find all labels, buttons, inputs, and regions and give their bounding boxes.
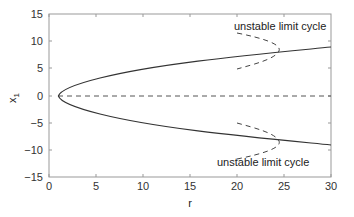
x-tick-label: 15 (184, 180, 196, 192)
annotation-top: unstable limit cycle (234, 20, 326, 32)
plot-frame (49, 14, 331, 177)
x-tick-label: 10 (137, 180, 149, 192)
x-tick-label: 30 (325, 180, 337, 192)
y-tick-label: −5 (30, 117, 43, 129)
x-tick-label: 20 (231, 180, 243, 192)
y-axis-label: x1 (6, 92, 21, 103)
y-tick-label: −10 (24, 144, 43, 156)
x-axis (49, 14, 331, 177)
x-axis-label: r (188, 197, 192, 209)
svg-text:x1: x1 (6, 92, 21, 103)
y-tick-label: 15 (31, 8, 43, 20)
x-tick-label: 0 (46, 180, 52, 192)
y-axis (49, 41, 331, 150)
bifurcation-chart: 0 5 10 15 20 25 30 r 15 10 5 0 −5 −10 −1… (0, 0, 354, 217)
y-tick-label: 10 (31, 35, 43, 47)
y-tick-label: −15 (24, 171, 43, 183)
y-tick-label: 5 (37, 62, 43, 74)
unstable-limit-cycle-lower (237, 123, 279, 159)
annotation-bottom: unstable limit cycle (217, 156, 309, 168)
x-tick-label: 5 (93, 180, 99, 192)
unstable-limit-cycle-upper (237, 33, 279, 69)
y-tick-label: 0 (37, 90, 43, 102)
x-tick-label: 25 (278, 180, 290, 192)
